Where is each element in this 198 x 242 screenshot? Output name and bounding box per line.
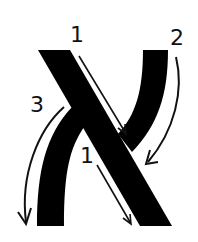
- stroke-order-diagram: 1 2 3 1: [0, 0, 198, 242]
- stroke-3-shape: [37, 107, 84, 226]
- stroke-3-label: 3: [30, 94, 44, 116]
- stroke-2-label: 2: [170, 27, 184, 49]
- stroke-1-bottom-label: 1: [80, 145, 94, 167]
- stroke-2-shape: [118, 50, 168, 152]
- stroke-1-top-label: 1: [70, 24, 84, 46]
- glyph-x-drawing: [0, 0, 198, 242]
